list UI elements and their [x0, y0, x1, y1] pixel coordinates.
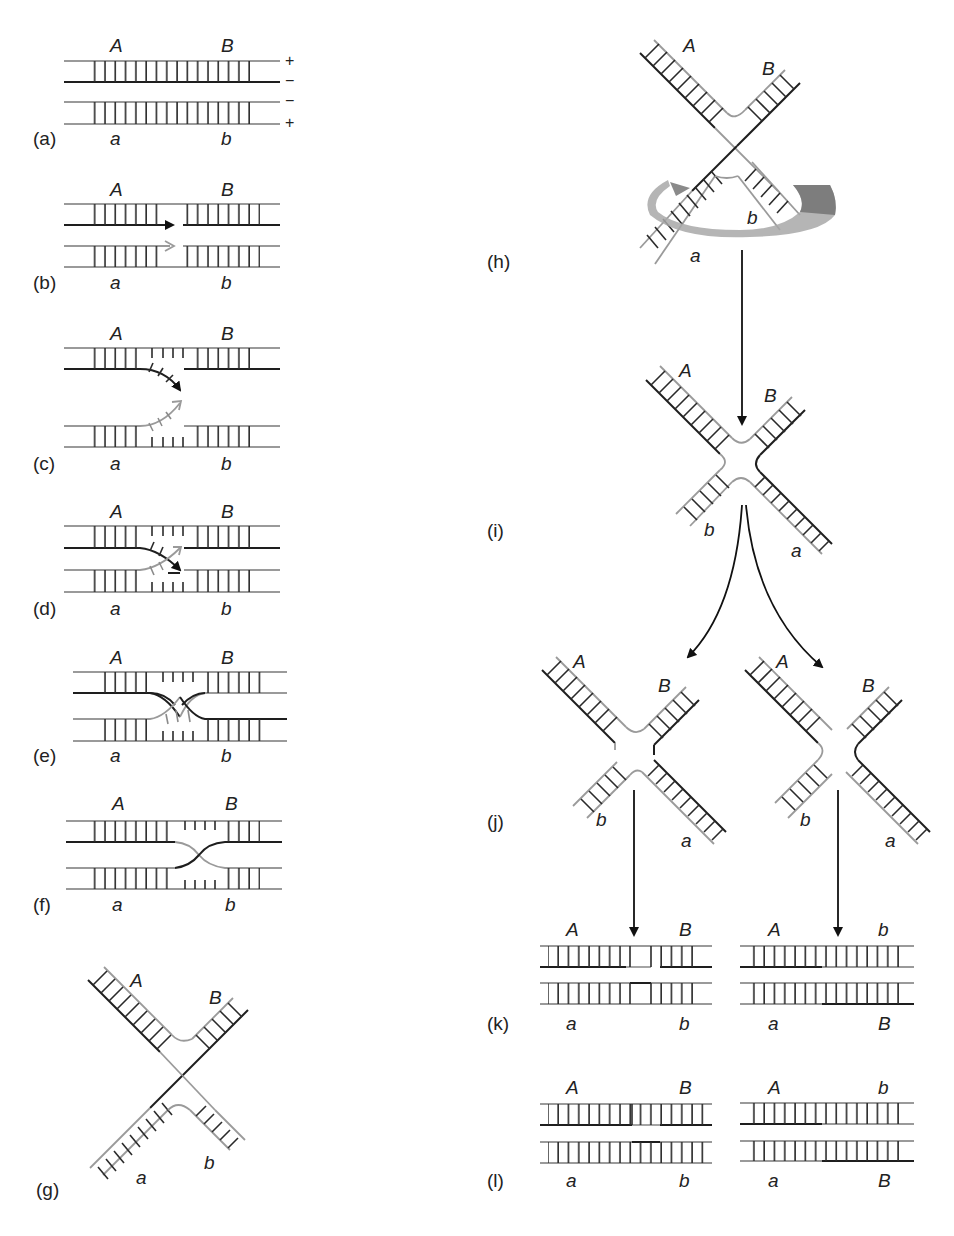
allele-B: B — [225, 793, 238, 814]
panel-f: A B a b (f) — [33, 793, 282, 915]
panel-l-left: A B a b (l) — [487, 1077, 712, 1191]
allele-A: A — [109, 179, 123, 200]
panel-label-d: (d) — [33, 598, 56, 619]
panel-a: A B a b + − − + (a) — [33, 35, 294, 149]
flow-arrow-icon — [746, 505, 822, 667]
panel-label-g: (g) — [36, 1179, 59, 1200]
allele-b: b — [596, 809, 607, 830]
allele-B: B — [221, 501, 234, 522]
panel-d: A B a b (d) — [33, 501, 280, 619]
panel-l-right: A b a B — [740, 1077, 914, 1191]
panel-label-k: (k) — [487, 1013, 509, 1034]
allele-b: b — [221, 128, 232, 149]
allele-a: a — [110, 598, 121, 619]
panel-label-i: (i) — [487, 520, 504, 541]
allele-a: a — [136, 1167, 147, 1188]
panel-label-h: (h) — [487, 251, 510, 272]
allele-B: B — [221, 35, 234, 56]
panel-k-left: A B a b (k) — [487, 919, 712, 1034]
polarity-plus: + — [285, 52, 294, 69]
panel-c: A B a b (c) — [33, 323, 280, 474]
allele-a: a — [110, 128, 121, 149]
allele-A: A — [565, 919, 579, 940]
panel-label-c: (c) — [33, 453, 55, 474]
allele-a: a — [791, 540, 802, 561]
allele-A: A — [682, 35, 696, 56]
allele-A: A — [572, 651, 586, 672]
allele-A: A — [109, 35, 123, 56]
panel-j-left: A B b a (j) — [487, 651, 726, 851]
panel-label-b: (b) — [33, 272, 56, 293]
allele-b: b — [679, 1170, 690, 1191]
panel-label-j: (j) — [487, 811, 504, 832]
panel-label-a: (a) — [33, 128, 56, 149]
allele-A: A — [767, 919, 781, 940]
holliday-diagram: A B a b + − − + (a) A B a b (b) — [0, 0, 954, 1236]
allele-b: b — [878, 919, 889, 940]
panel-i: A B b a (i) — [487, 360, 832, 561]
allele-B: B — [221, 647, 234, 668]
allele-a: a — [566, 1170, 577, 1191]
allele-B: B — [221, 323, 234, 344]
allele-B: B — [878, 1013, 891, 1034]
allele-b: b — [221, 745, 232, 766]
allele-A: A — [678, 360, 692, 381]
allele-b: b — [800, 809, 811, 830]
allele-A: A — [109, 647, 123, 668]
allele-B: B — [679, 919, 692, 940]
allele-b: b — [221, 453, 232, 474]
allele-A: A — [767, 1077, 781, 1098]
allele-A: A — [109, 501, 123, 522]
polarity-plus: + — [285, 114, 294, 131]
allele-b: b — [221, 272, 232, 293]
allele-a: a — [681, 830, 692, 851]
allele-a: a — [768, 1013, 779, 1034]
allele-A: A — [565, 1077, 579, 1098]
allele-B: B — [221, 179, 234, 200]
allele-b: b — [704, 519, 715, 540]
allele-b: b — [204, 1152, 215, 1173]
allele-A: A — [775, 651, 789, 672]
panel-g: A B a b (g) — [36, 967, 248, 1200]
panel-h: A B a b (h) — [487, 35, 836, 272]
allele-a: a — [885, 830, 896, 851]
allele-a: a — [566, 1013, 577, 1034]
allele-B: B — [764, 385, 777, 406]
allele-a: a — [110, 745, 121, 766]
allele-b: b — [221, 598, 232, 619]
allele-b: b — [679, 1013, 690, 1034]
panel-label-e: (e) — [33, 745, 56, 766]
allele-b: b — [225, 894, 236, 915]
allele-a: a — [110, 453, 121, 474]
polarity-minus: − — [285, 92, 294, 109]
allele-A: A — [111, 793, 125, 814]
allele-B: B — [762, 58, 775, 79]
allele-a: a — [110, 272, 121, 293]
allele-a: a — [690, 245, 701, 266]
allele-a: a — [112, 894, 123, 915]
panel-b: A B a b (b) — [33, 179, 280, 293]
allele-B: B — [658, 675, 671, 696]
allele-a: a — [768, 1170, 779, 1191]
panel-label-f: (f) — [33, 894, 51, 915]
allele-A: A — [109, 323, 123, 344]
panel-e: A B a b (e) — [33, 647, 287, 766]
allele-A: A — [129, 970, 143, 991]
polarity-minus: − — [285, 72, 294, 89]
allele-B: B — [878, 1170, 891, 1191]
panel-label-l: (l) — [487, 1170, 504, 1191]
flow-arrow-icon — [688, 505, 742, 657]
allele-B: B — [209, 987, 222, 1008]
allele-b: b — [878, 1077, 889, 1098]
allele-b: b — [747, 207, 758, 228]
panel-k-right: A b a B — [740, 919, 914, 1034]
allele-B: B — [679, 1077, 692, 1098]
allele-B: B — [862, 675, 875, 696]
